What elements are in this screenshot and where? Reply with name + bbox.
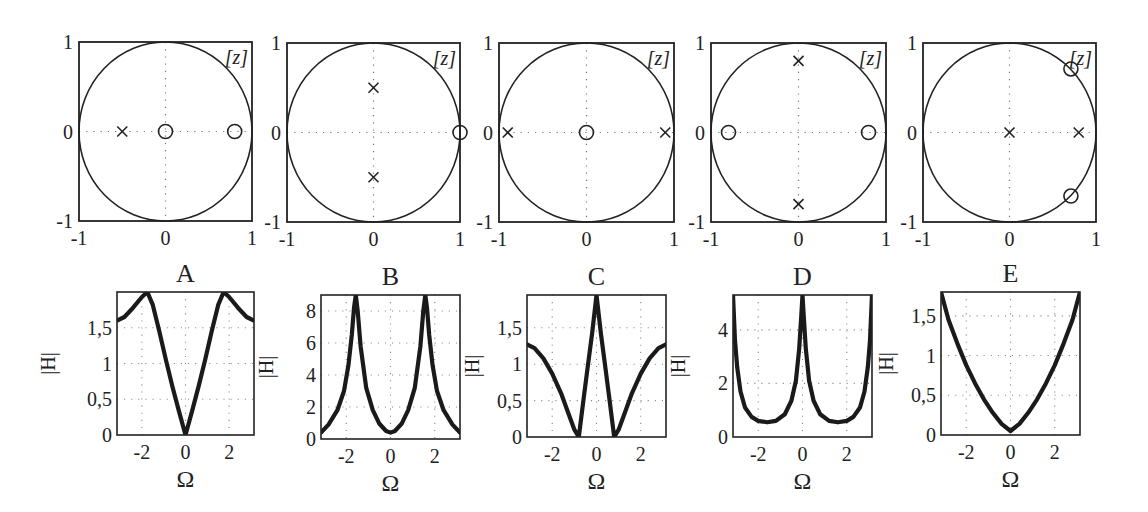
- x-tick-label: 0: [181, 441, 191, 463]
- y-tick-label: 1: [695, 32, 705, 54]
- pole-zero-plot-a: [z]-101-101: [56, 31, 257, 249]
- y-tick-label: 8: [306, 300, 316, 322]
- y-axis-label: |H|: [255, 356, 278, 378]
- y-tick-label: 1: [907, 32, 917, 54]
- y-tick-label: 0: [102, 424, 112, 446]
- pole-marker: [794, 199, 804, 209]
- y-tick-label: 1,5: [497, 317, 522, 339]
- pole-zero-plot-c: [z]-101-101: [476, 32, 679, 250]
- y-tick-label: 0,5: [497, 390, 522, 412]
- x-tick-label: -1: [71, 227, 88, 249]
- magnitude-plot-a: A-20200,511,5Ω|H|: [37, 259, 254, 492]
- y-tick-label: -1: [264, 211, 281, 233]
- x-tick-label: -1: [491, 228, 508, 250]
- z-plane-label: [z]: [1069, 47, 1092, 69]
- y-tick-label: 0: [271, 122, 281, 144]
- x-axis-label: Ω: [382, 470, 400, 496]
- y-tick-label: 1: [512, 353, 522, 375]
- y-tick-label: 0,5: [87, 388, 112, 410]
- x-tick-label: 0: [582, 228, 592, 250]
- x-tick-label: -2: [338, 445, 355, 467]
- x-tick-label: 2: [636, 443, 646, 465]
- pole-marker: [369, 83, 379, 93]
- y-tick-label: -1: [476, 211, 493, 233]
- y-tick-label: 0: [483, 122, 493, 144]
- x-axis-label: Ω: [588, 468, 606, 494]
- x-tick-label: 0: [794, 228, 804, 250]
- x-tick-label: 0: [1006, 441, 1016, 463]
- y-tick-label: 0: [63, 121, 73, 143]
- pole-zero-plot-e: [z]-101-101: [900, 32, 1101, 250]
- y-tick-label: 0: [695, 122, 705, 144]
- x-tick-label: -2: [958, 441, 975, 463]
- pole-zero-plot-b: [z]-101-101: [264, 32, 467, 250]
- x-tick-label: 0: [798, 443, 808, 465]
- y-tick-label: -1: [688, 211, 705, 233]
- y-tick-label: 0: [926, 424, 936, 446]
- x-tick-label: -2: [750, 443, 767, 465]
- panel-title: C: [588, 262, 605, 291]
- pole-zero-plot-d: [z]-101-101: [688, 32, 891, 250]
- x-tick-label: 1: [881, 228, 891, 250]
- x-tick-label: -2: [134, 441, 151, 463]
- pole-marker: [1005, 128, 1015, 138]
- y-tick-label: 1: [926, 345, 936, 367]
- y-tick-label: 2: [718, 372, 728, 394]
- panel-title: A: [176, 259, 195, 288]
- y-tick-label: 1,5: [911, 305, 936, 327]
- x-axis-label: Ω: [177, 466, 195, 492]
- z-plane-label: [z]: [647, 47, 670, 69]
- magnitude-plot-b: B-20202468Ω|H|: [255, 262, 460, 496]
- x-tick-label: 2: [224, 441, 234, 463]
- x-tick-label: 0: [592, 443, 602, 465]
- zero-marker: [228, 125, 242, 139]
- magnitude-plot-d: D-202024Ω|H|: [667, 262, 872, 494]
- y-tick-label: 2: [306, 396, 316, 418]
- magnitude-plot-e: E-20200,511,5Ω|H|: [875, 259, 1080, 492]
- panel-title: D: [793, 262, 812, 291]
- y-axis-label: |H|: [461, 355, 484, 377]
- x-tick-label: 0: [161, 227, 171, 249]
- panel-title: B: [382, 262, 399, 291]
- x-tick-label: 1: [669, 228, 679, 250]
- y-tick-label: 0: [907, 122, 917, 144]
- y-axis-label: |H|: [37, 352, 60, 374]
- x-tick-label: 2: [1050, 441, 1060, 463]
- x-tick-label: 0: [386, 445, 396, 467]
- y-tick-label: 0: [306, 428, 316, 450]
- pole-marker: [660, 128, 670, 138]
- y-tick-label: 4: [718, 319, 728, 341]
- pole-marker: [503, 128, 513, 138]
- z-plane-label: [z]: [859, 47, 882, 69]
- zero-marker: [862, 126, 876, 140]
- y-tick-label: 1: [271, 32, 281, 54]
- x-tick-label: -1: [703, 228, 720, 250]
- y-tick-label: 1: [483, 32, 493, 54]
- y-tick-label: 0: [512, 426, 522, 448]
- x-axis-label: Ω: [1002, 466, 1020, 492]
- y-tick-label: -1: [56, 210, 73, 232]
- y-tick-label: -1: [900, 211, 917, 233]
- y-tick-label: 1: [102, 353, 112, 375]
- x-tick-label: -2: [544, 443, 561, 465]
- y-tick-label: 1: [63, 31, 73, 53]
- x-tick-label: -1: [915, 228, 932, 250]
- x-tick-label: 1: [1091, 228, 1101, 250]
- x-tick-label: -1: [279, 228, 296, 250]
- magnitude-curve: [941, 292, 1080, 431]
- magnitude-plot-c: C-20200,511,5Ω|H|: [461, 262, 666, 494]
- magnitude-curve: [321, 295, 460, 433]
- magnitude-curve: [733, 295, 872, 422]
- y-axis-label: |H|: [875, 352, 898, 374]
- y-tick-label: 0: [718, 426, 728, 448]
- x-tick-label: 0: [369, 228, 379, 250]
- y-tick-label: 6: [306, 332, 316, 354]
- x-tick-label: 1: [247, 227, 257, 249]
- z-plane-label: [z]: [433, 47, 456, 69]
- y-tick-label: 0,5: [911, 384, 936, 406]
- x-tick-label: 1: [455, 228, 465, 250]
- y-tick-label: 1,5: [87, 317, 112, 339]
- x-axis-label: Ω: [794, 468, 812, 494]
- figure-canvas: [z]-101-101[z]-101-101[z]-101-101[z]-101…: [0, 0, 1148, 512]
- pole-marker: [117, 127, 127, 137]
